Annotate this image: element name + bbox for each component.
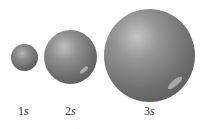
orbital-3s-label: 3s [144, 104, 155, 119]
orbital-3s-sphere [104, 9, 195, 102]
orbital-2s-label: 2s [65, 104, 76, 119]
orbital-1s-label: 1s [18, 104, 29, 119]
label-subshell: s [24, 104, 29, 118]
orbital-2s-sphere [44, 30, 97, 84]
orbital-1s-sphere [11, 44, 38, 71]
label-subshell: s [150, 104, 155, 118]
label-subshell: s [71, 104, 76, 118]
